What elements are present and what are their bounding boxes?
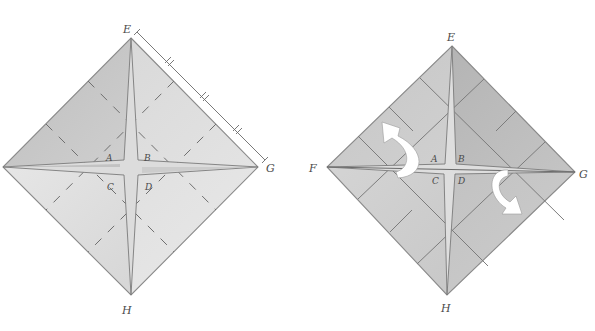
label-f: F <box>308 162 317 175</box>
left-origami-diagram: E G H A B C D <box>3 23 275 317</box>
label-e: E <box>122 23 131 36</box>
label-d: D <box>457 176 465 186</box>
right-origami-diagram: E F G H A B C D <box>308 31 588 315</box>
label-h: H <box>121 304 132 317</box>
label-b: B <box>457 154 465 164</box>
label-a: A <box>430 154 438 164</box>
label-c: C <box>432 176 439 186</box>
label-e: E <box>446 31 455 44</box>
label-c: C <box>107 182 114 192</box>
label-b: B <box>143 153 151 163</box>
label-g: G <box>579 168 588 181</box>
label-g: G <box>266 162 275 175</box>
label-h: H <box>440 302 451 315</box>
label-d: D <box>144 182 152 192</box>
label-a: A <box>105 153 113 163</box>
